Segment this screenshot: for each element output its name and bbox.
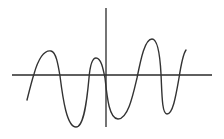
plot-canvas (0, 0, 224, 139)
wave-diagram (0, 0, 224, 139)
